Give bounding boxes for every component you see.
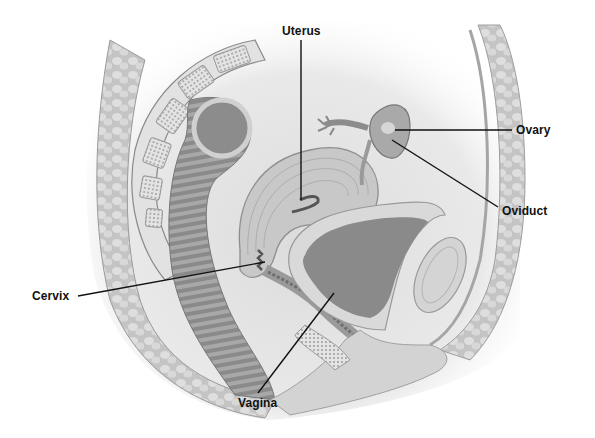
- label-oviduct: Oviduct: [502, 204, 547, 218]
- label-cervix: Cervix: [32, 289, 69, 303]
- anatomy-diagram: Uterus Ovary Oviduct Cervix Vagina: [0, 0, 595, 438]
- pelvis-illustration: [0, 0, 595, 438]
- colon-loop: [194, 100, 250, 156]
- label-ovary: Ovary: [516, 123, 551, 137]
- label-vagina: Vagina: [238, 396, 277, 410]
- label-uterus: Uterus: [282, 24, 321, 38]
